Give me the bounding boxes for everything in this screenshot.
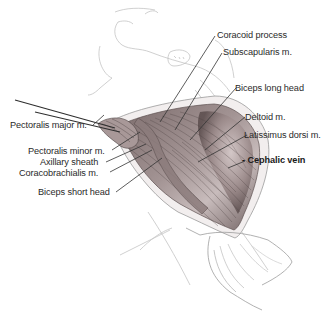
label-latissimus-dorsi: Latissimus dorsi m.: [244, 131, 321, 140]
anatomical-figure: Coracoid process Subscapularis m. Biceps…: [0, 0, 330, 315]
label-axillary-sheath: Axillary sheath: [40, 158, 98, 167]
label-deltoid: Deltoid m.: [245, 113, 285, 122]
label-pectoralis-major: Pectoralis major m.: [10, 121, 87, 130]
label-coracobrachialis: Coracobrachialis m.: [19, 169, 98, 178]
label-biceps-long-head: Biceps long head: [235, 84, 304, 93]
label-coracoid-process: Coracoid process: [217, 31, 287, 40]
hand-sketch: [186, 228, 292, 310]
label-cephalic-vein: - Cephalic vein: [242, 156, 305, 165]
label-subscapularis: Subscapularis m.: [223, 48, 292, 57]
label-pectoralis-minor: Pectoralis minor m.: [28, 147, 105, 156]
label-biceps-short-head: Biceps short head: [38, 188, 110, 197]
